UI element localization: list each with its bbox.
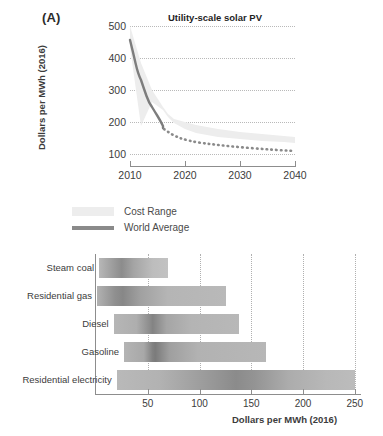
panel-b-xtick-250: 250 — [335, 398, 375, 409]
panel-a-ytick-200: 200 — [96, 116, 126, 128]
panel-a-ytick-400: 400 — [96, 52, 126, 64]
panel-b-xtick-50: 50 — [128, 398, 168, 409]
category-label-steam-coal: Steam coal — [0, 258, 94, 278]
legend-item-cost-range: Cost Range — [72, 205, 292, 218]
panel-b-xtick-200: 200 — [283, 398, 323, 409]
panel-a-ytick-500: 500 — [96, 20, 126, 32]
legend-label-world-average: World Average — [124, 222, 189, 233]
world-average-swatch-icon — [72, 226, 114, 230]
panel-b-xtick-50-mark — [148, 389, 149, 394]
panel-b-x-axis-line — [95, 394, 361, 395]
bar-diesel: Diesel — [114, 314, 239, 334]
panel-b-xtick-150: 150 — [231, 398, 271, 409]
panel-a-plot-area — [130, 26, 295, 156]
bar-steam-coal: Steam coal — [99, 258, 168, 278]
panel-a-legend: Cost Range World Average — [72, 205, 292, 237]
panel-a-chart: (A) Utility-scale solar PV Dollars per M… — [0, 0, 383, 240]
panel-b-xtick-100-mark — [200, 389, 201, 394]
panel-b-xtick-100: 100 — [180, 398, 220, 409]
panel-a-series-svg — [130, 26, 295, 158]
panel-a-xtick-2030-mark — [240, 161, 241, 166]
panel-a-ytick-300: 300 — [96, 84, 126, 96]
category-label-residential-electricity: Residential electricity — [0, 370, 112, 390]
panel-a-y-axis-title: Dollars per MWh (2016) — [36, 33, 47, 163]
category-label-residential-gas: Residential gas — [0, 286, 92, 306]
panel-b-xtick-150-mark — [251, 389, 252, 394]
panel-a-xtick-2010: 2010 — [110, 169, 150, 181]
cost-range-swatch-icon — [72, 207, 114, 216]
bar-residential-electricity: Residential electricity — [117, 370, 355, 390]
panel-b-chart: (B) Steam coal Residential gas Diesel Ga… — [0, 240, 383, 436]
category-label-gasoline: Gasoline — [0, 342, 119, 362]
legend-label-cost-range: Cost Range — [124, 206, 177, 217]
gridline-250 — [355, 254, 356, 394]
panel-b-xtick-250-mark — [355, 389, 356, 394]
bar-residential-gas: Residential gas — [97, 286, 226, 306]
panel-a-title: Utility-scale solar PV — [120, 12, 310, 23]
panel-a-xtick-2040-mark — [295, 161, 296, 166]
panel-a-ytick-100: 100 — [96, 148, 126, 160]
bar-gasoline: Gasoline — [124, 342, 266, 362]
panel-b-plot-area: Steam coal Residential gas Diesel Gasoli… — [96, 254, 360, 394]
panel-a-xtick-2020-mark — [185, 161, 186, 166]
panel-a-xtick-2040: 2040 — [275, 169, 315, 181]
panel-a-xtick-2020: 2020 — [165, 169, 205, 181]
panel-b-xtick-200-mark — [303, 389, 304, 394]
panel-a-label: (A) — [42, 10, 61, 25]
panel-a-x-axis-line — [130, 166, 296, 167]
panel-a-xtick-2030: 2030 — [220, 169, 260, 181]
legend-item-world-average: World Average — [72, 221, 292, 234]
category-label-diesel: Diesel — [0, 314, 109, 334]
panel-a-xtick-2010-mark — [130, 161, 131, 166]
panel-b-x-axis-title: Dollars per MWh (2016) — [232, 414, 337, 425]
cost-range-band — [130, 26, 295, 143]
